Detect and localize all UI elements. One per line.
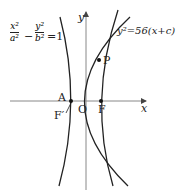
point-F-prime-label: F′ [54,110,64,121]
hyperbola-frac-2: y²b² [35,22,44,43]
point-A-label: A [58,92,66,103]
point-F-label: F [98,104,106,115]
hyperbola-frac-1: x²a² [10,22,19,43]
origin-label: O [78,104,87,115]
point-P-label: P [103,55,110,66]
point-P-dot [97,58,101,62]
point-A-dot [69,99,73,103]
hyperbola-right-branch [102,10,118,186]
y-axis-label: y [78,12,84,23]
x-axis-label: x [141,103,147,114]
parabola-equation: y²=56(x+c) [117,26,175,36]
hyperbola-equals: =1 [47,31,63,42]
hyperbola-minus: − [24,31,33,42]
